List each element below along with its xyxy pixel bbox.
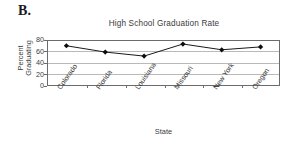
series-line [66,44,260,56]
x-axis-tick-labels: ColoradoFloridaLouisianaMissouriNew York… [47,86,280,126]
y-axis-title-line-1: Percent [17,46,26,71]
y-axis-tick-labels: 020406080 [26,0,44,144]
data-series-layer [47,40,280,86]
data-point-marker [219,47,224,52]
x-axis-title: State [47,127,280,136]
data-point-marker [64,43,69,48]
y-axis-tick-label: 0 [26,82,44,89]
data-point-marker [180,41,185,46]
y-axis-tick-label: 60 [26,48,44,55]
chart-title: High School Graduation Rate [48,19,280,28]
data-point-marker [258,44,263,49]
data-point-marker [141,53,146,58]
data-point-marker [103,49,108,54]
figure-panel-b: B. High School Graduation Rate Percent G… [0,0,299,144]
y-axis-tick-label: 80 [26,36,44,43]
y-axis-tick-label: 20 [26,71,44,78]
y-axis-tick-label: 40 [26,59,44,66]
